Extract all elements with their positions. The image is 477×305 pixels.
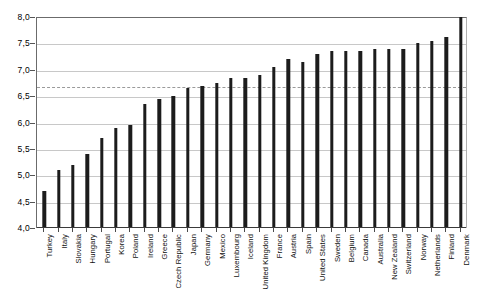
x-tick-mark (431, 228, 432, 232)
x-tick-mark (287, 228, 288, 232)
bar (430, 41, 433, 228)
bar (287, 59, 290, 228)
x-tick-mark (216, 228, 217, 232)
x-tick-label: Belgium (348, 234, 356, 262)
bar (71, 165, 74, 228)
x-tick-mark (331, 228, 332, 232)
x-tick-label: Denmark (463, 234, 471, 266)
x-tick-label: Iceland (247, 234, 255, 259)
x-tick-mark (259, 228, 260, 232)
bar (359, 51, 362, 228)
x-tick-label: United States (319, 234, 327, 281)
y-tick-label: 8,0 (18, 13, 30, 22)
bar (258, 75, 261, 228)
x-tick-mark (273, 228, 274, 232)
x-tick-label: Spain (305, 234, 313, 254)
x-tick-label: Slovakia (75, 234, 83, 264)
y-tick-label: 6,0 (18, 118, 30, 127)
y-tick-mark (30, 17, 35, 18)
plot-area (36, 17, 467, 228)
x-tick-mark (445, 228, 446, 232)
bar (129, 125, 132, 228)
bar (373, 49, 376, 228)
bar (86, 154, 89, 228)
bar-chart: 8,07,57,06,56,05,55,04,54,0 TurkeyItalyS… (0, 0, 477, 305)
y-tick-label: 5,0 (18, 171, 30, 180)
x-tick-mark (359, 228, 360, 232)
x-tick-mark (302, 228, 303, 232)
y-tick-mark (30, 175, 35, 176)
x-tick-label: Hungary (89, 234, 97, 263)
y-tick-mark (30, 43, 35, 44)
bar (445, 37, 448, 228)
x-tick-mark (402, 228, 403, 232)
bar (186, 88, 189, 228)
x-tick-mark (187, 228, 188, 232)
bar (402, 49, 405, 228)
y-tick-mark (30, 202, 35, 203)
x-tick-mark (374, 228, 375, 232)
bar (459, 17, 462, 228)
bar (272, 67, 275, 228)
bar (157, 99, 160, 228)
bar (301, 62, 304, 228)
bar (172, 96, 175, 228)
x-tick-label: France (276, 234, 284, 258)
x-tick-mark (144, 228, 145, 232)
x-tick-label: Poland (132, 234, 140, 258)
x-tick-mark (460, 228, 461, 232)
y-tick-mark (30, 70, 35, 71)
x-tick-mark (115, 228, 116, 232)
x-tick-label: Finland (448, 234, 456, 260)
x-tick-label: Japan (190, 234, 198, 255)
x-tick-label: United Kingdom (262, 234, 270, 289)
x-tick-mark (158, 228, 159, 232)
x-tick-mark (72, 228, 73, 232)
x-tick-mark (129, 228, 130, 232)
y-tick-label: 6,5 (18, 92, 30, 101)
x-tick-mark (86, 228, 87, 232)
y-tick-mark (30, 123, 35, 124)
x-tick-label: Australia (377, 234, 385, 264)
x-tick-mark (101, 228, 102, 232)
y-tick-label: 7,0 (18, 65, 30, 74)
x-tick-label: Greece (161, 234, 169, 260)
bar (229, 78, 232, 228)
x-tick-label: Netherlands (434, 234, 442, 276)
bar (330, 51, 333, 228)
x-tick-label: Switzerland (405, 234, 413, 274)
x-tick-mark (230, 228, 231, 232)
x-tick-label: Czech Republic (175, 234, 183, 289)
x-tick-label: Korea (118, 234, 126, 255)
y-axis: 8,07,57,06,56,05,55,04,54,0 (0, 0, 34, 305)
x-tick-label: Canada (362, 234, 370, 261)
y-tick-label: 7,5 (18, 39, 30, 48)
bar (315, 54, 318, 228)
x-tick-label: Norway (420, 234, 428, 260)
x-tick-label: New Zealand (391, 234, 399, 280)
x-axis-labels: TurkeyItalySlovakiaHungaryPortugalKoreaP… (36, 234, 467, 305)
x-tick-label: Turkey (46, 234, 54, 258)
bar (244, 78, 247, 228)
x-tick-label: Ireland (147, 234, 155, 258)
x-tick-label: Mexico (219, 234, 227, 259)
y-tick-label: 5,5 (18, 144, 30, 153)
bar (215, 83, 218, 228)
x-tick-mark (201, 228, 202, 232)
x-tick-mark (172, 228, 173, 232)
bar (201, 86, 204, 228)
x-tick-mark (388, 228, 389, 232)
y-tick-mark (30, 96, 35, 97)
x-tick-label: Portugal (104, 234, 112, 263)
bar (42, 191, 45, 228)
x-tick-label: Germany (204, 234, 212, 266)
x-tick-mark (43, 228, 44, 232)
y-tick-label: 4,5 (18, 197, 30, 206)
x-axis-ticks (36, 228, 467, 233)
bar (387, 49, 390, 228)
bar (416, 43, 419, 228)
x-tick-mark (316, 228, 317, 232)
bars (37, 18, 466, 228)
x-tick-mark (244, 228, 245, 232)
x-tick-mark (417, 228, 418, 232)
